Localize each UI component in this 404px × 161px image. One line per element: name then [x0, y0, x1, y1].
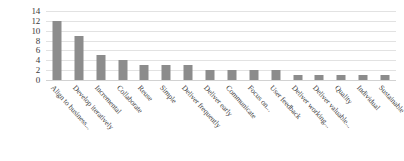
bar-slot — [177, 11, 199, 80]
bar — [140, 65, 149, 80]
bar — [96, 55, 105, 80]
bar-slot — [287, 11, 309, 80]
x-axis-label: Simple — [158, 84, 178, 105]
x-label-slot: Focus on... — [243, 82, 265, 161]
bar-slot — [309, 11, 331, 80]
bar-slot — [46, 11, 68, 80]
x-label-slot: Communicate — [221, 82, 243, 161]
bar — [337, 75, 346, 80]
x-label-slot: Deliver valuable... — [309, 82, 331, 161]
x-label-slot: Align to business... — [46, 82, 68, 161]
bar-slot — [199, 11, 221, 80]
bar-slot — [68, 11, 90, 80]
x-label-slot: Reuse — [134, 82, 156, 161]
y-axis-tick-labels: 14121086420 — [0, 0, 44, 95]
bar-slot — [374, 11, 396, 80]
bar-chart: 14121086420 Align to business...Develop … — [0, 0, 404, 161]
bar-slot — [112, 11, 134, 80]
y-tick-label-8: 8 — [36, 36, 40, 45]
bar — [249, 70, 258, 80]
bar — [359, 75, 368, 80]
bar — [227, 70, 236, 80]
bar — [74, 36, 83, 80]
x-label-slot: Deliver early — [199, 82, 221, 161]
bar-slot — [243, 11, 265, 80]
x-axis-category-labels: Align to business...Develop iterativelyI… — [46, 82, 396, 161]
bar-slot — [90, 11, 112, 80]
x-label-slot: Individual — [352, 82, 374, 161]
x-axis-label: Reuse — [136, 84, 154, 103]
x-label-slot: Simple — [155, 82, 177, 161]
bar-slot — [221, 11, 243, 80]
x-label-slot: Incremental — [90, 82, 112, 161]
y-tick-label-6: 6 — [36, 46, 40, 55]
bar — [118, 60, 127, 80]
bar-slot — [352, 11, 374, 80]
x-axis-label: Sustainable — [377, 84, 404, 115]
x-label-slot: Deliver working... — [287, 82, 309, 161]
y-tick-label-2: 2 — [36, 66, 40, 75]
y-tick-label-12: 12 — [31, 16, 40, 25]
gridline-0 — [46, 80, 396, 81]
y-tick-label-0: 0 — [36, 76, 40, 85]
x-label-slot: Quality — [330, 82, 352, 161]
bar-slot — [330, 11, 352, 80]
bar — [293, 75, 302, 80]
x-label-slot: Sustainable — [374, 82, 396, 161]
y-tick-label-14: 14 — [31, 7, 40, 16]
bar — [381, 75, 390, 80]
bar-slot — [155, 11, 177, 80]
x-label-slot: Develop iteratively — [68, 82, 90, 161]
bar — [315, 75, 324, 80]
x-label-slot: Collaborate — [112, 82, 134, 161]
bar-slot — [134, 11, 156, 80]
y-tick-label-10: 10 — [31, 26, 40, 35]
x-axis-label: Quality — [333, 84, 354, 106]
bar-slot — [265, 11, 287, 80]
bar — [162, 65, 171, 80]
y-tick-label-4: 4 — [36, 56, 40, 65]
x-label-slot: Deliver frequently — [177, 82, 199, 161]
bar — [52, 21, 61, 80]
bar-series — [46, 11, 396, 80]
x-label-slot: User feedback — [265, 82, 287, 161]
bar — [271, 70, 280, 80]
bar — [184, 65, 193, 80]
bar — [206, 70, 215, 80]
